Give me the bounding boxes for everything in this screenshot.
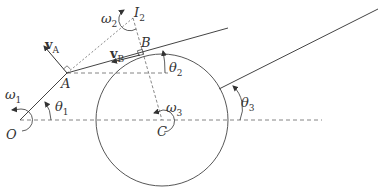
right-angle-marker-a — [64, 66, 71, 69]
point-b-label: B — [141, 36, 151, 49]
mechanism-diagram — [0, 0, 382, 195]
omega3-label: ω3 — [166, 101, 182, 118]
line-i2-to-c — [133, 18, 162, 120]
omega1-label: ω1 — [5, 88, 21, 105]
point-o-label: O — [6, 128, 17, 141]
line-a-to-i2 — [67, 18, 133, 73]
link-3 — [219, 9, 378, 89]
point-c-label: C — [157, 125, 167, 138]
theta3-label: θ3 — [241, 96, 255, 113]
velocity-a-label: vA — [45, 38, 59, 55]
theta2-label: θ2 — [169, 61, 183, 78]
theta1-arc — [45, 102, 51, 120]
theta1-label: θ1 — [55, 100, 69, 117]
velocity-b-label: vB — [110, 47, 124, 64]
point-a-label: A — [61, 77, 70, 90]
omega2-label: ω2 — [101, 12, 117, 29]
point-i2-label: I2 — [134, 6, 145, 23]
